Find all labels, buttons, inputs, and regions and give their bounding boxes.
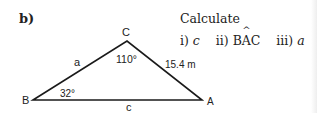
vertex-label-b: B [22, 94, 29, 106]
angle-label-b: 32° [60, 88, 75, 99]
vertex-label-c: C [122, 26, 130, 38]
vertex-label-a: A [207, 96, 214, 107]
triangle-diagram: B C A a c 15.4 m 110° 32° [0, 0, 317, 113]
side-label-a: a [74, 56, 81, 68]
side-label-b-length: 15.4 m [165, 59, 196, 70]
angle-label-c: 110° [116, 53, 137, 65]
side-label-c: c [126, 101, 132, 113]
triangle-shape [33, 41, 202, 100]
